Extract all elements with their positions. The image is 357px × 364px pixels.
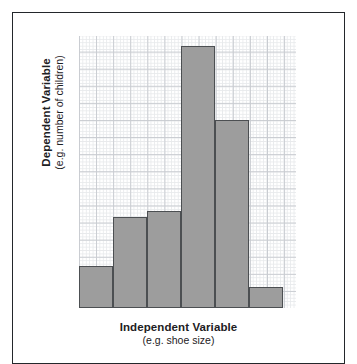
histogram-plot-area xyxy=(79,36,296,308)
histogram-bar xyxy=(113,217,147,308)
histogram-bar xyxy=(215,120,249,308)
histogram-bar xyxy=(79,266,113,308)
x-axis-label: Independent Variable (e.g. shoe size) xyxy=(13,320,344,347)
histogram-bar xyxy=(181,46,215,308)
y-axis-label-secondary: (e.g. number of children) xyxy=(53,13,66,213)
y-axis-label-primary: Dependent Variable xyxy=(39,13,53,213)
figure-frame: Dependent Variable (e.g. number of child… xyxy=(12,12,345,364)
y-axis-label: Dependent Variable (e.g. number of child… xyxy=(39,13,66,213)
histogram-bar xyxy=(249,287,283,308)
histogram-bar xyxy=(147,211,181,308)
x-axis-label-primary: Independent Variable xyxy=(13,320,344,334)
bars-layer xyxy=(79,36,296,308)
x-axis-label-secondary: (e.g. shoe size) xyxy=(13,334,344,347)
